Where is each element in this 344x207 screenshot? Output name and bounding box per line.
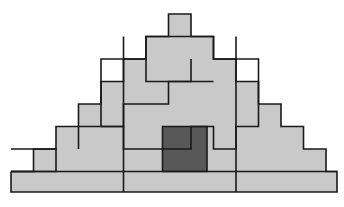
shape-base-bar: [11, 172, 337, 193]
staircase-pyramid-figure: Overlapping staircase pyramid tiling fig…: [0, 0, 344, 207]
